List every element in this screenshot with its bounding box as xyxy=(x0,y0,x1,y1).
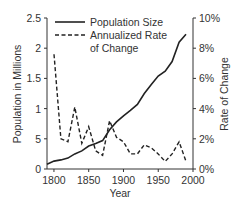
legend-label-rate-line1: Annualized Rate xyxy=(90,29,167,41)
y2-tick-label: 6% xyxy=(199,72,214,84)
x-axis-label: Year xyxy=(109,187,131,199)
y-tick-label: 2.5 xyxy=(26,12,41,24)
x-tick-label: 1850 xyxy=(77,174,101,186)
y-tick-label: 5 xyxy=(35,133,41,145)
y2-tick-label: 8% xyxy=(199,42,214,54)
chart: 0511.522.50%2%4%6%8%10%18001850190019502… xyxy=(0,0,241,206)
x-tick-label: 2000 xyxy=(181,174,205,186)
y-tick-label: 0 xyxy=(35,163,41,175)
y2-tick-label: 4% xyxy=(199,103,214,115)
legend-label-population: Population Size xyxy=(90,16,163,28)
legend: Population Size Annualized Rate of Chang… xyxy=(55,16,167,54)
y2-axis-label: Rate of Change xyxy=(218,57,230,131)
y-tick-label: 1 xyxy=(35,103,41,115)
legend-label-rate-line2: of Change xyxy=(90,42,139,54)
y-tick-label: 2 xyxy=(35,42,41,54)
x-tick-label: 1900 xyxy=(112,174,136,186)
x-tick-label: 1950 xyxy=(147,174,171,186)
y2-tick-label: 10% xyxy=(199,12,220,24)
y2-tick-label: 2% xyxy=(199,133,214,145)
y-axis-label: Population in Millions xyxy=(11,45,23,144)
x-tick-label: 1800 xyxy=(42,174,66,186)
y-tick-label: 1.5 xyxy=(26,72,41,84)
